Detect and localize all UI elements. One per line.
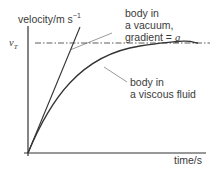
- fluid-leader-line: [104, 67, 127, 82]
- y-axis-label: velocity/m s−1: [18, 10, 81, 25]
- x-axis-label: time/s: [174, 154, 202, 166]
- vacuum-label: body in a vacuum, gradient = g: [125, 7, 180, 44]
- terminal-velocity-label: vT: [9, 37, 18, 53]
- fluid-label: body in a viscous fluid: [130, 76, 196, 100]
